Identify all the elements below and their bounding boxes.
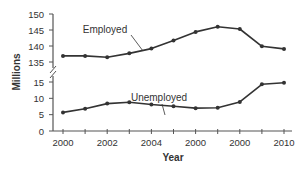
employed-point <box>216 25 220 29</box>
y-tick-label: 0 <box>39 126 44 137</box>
employed-point <box>61 54 65 58</box>
employed-point <box>238 27 242 31</box>
y-tick-label: 135 <box>28 57 44 68</box>
unemployed-point <box>83 107 87 111</box>
y-tick-label: 15 <box>33 77 44 88</box>
unemployed-point <box>260 82 264 86</box>
employed-point <box>172 39 176 43</box>
unemployed-point <box>238 100 242 104</box>
x-tick-label: 2002 <box>97 137 118 148</box>
annotations: EmployedUnemployed <box>83 24 187 115</box>
employed-label: Employed <box>83 24 127 35</box>
employed-point <box>83 54 87 58</box>
employed-point <box>149 47 153 51</box>
x-tick-label: 2004 <box>141 137 162 148</box>
employed-leader-line <box>131 35 143 51</box>
y-tick-label: 140 <box>28 41 44 52</box>
y-tick-label: 5 <box>39 109 44 120</box>
employed-point <box>194 30 198 34</box>
employed-point <box>127 51 131 55</box>
unemployed-point <box>172 104 176 108</box>
unemployed-point <box>149 103 153 107</box>
line-chart: 1351401451500510152000200220042000200020… <box>0 0 306 174</box>
x-axis-title: Year <box>162 152 183 163</box>
employed-point <box>105 55 109 59</box>
x-tick-label: 2000 <box>185 137 206 148</box>
y-axis-title: Millions <box>11 53 22 91</box>
unemployed-point <box>282 81 286 85</box>
unemployed-point <box>105 102 109 106</box>
x-tick-label: 2010 <box>273 137 294 148</box>
unemployed-label: Unemployed <box>131 92 187 103</box>
x-tick-label: 2000 <box>52 137 73 148</box>
y-tick-label: 145 <box>28 25 44 36</box>
y-tick-label: 150 <box>28 9 44 20</box>
y-tick-label: 10 <box>33 93 44 104</box>
x-tick-label: 2000 <box>229 137 250 148</box>
unemployed-point <box>194 106 198 110</box>
employed-point <box>282 47 286 51</box>
employed-point <box>260 44 264 48</box>
unemployed-point <box>61 110 65 114</box>
unemployed-point <box>216 106 220 110</box>
axes: 1351401451500510152000200220042000200020… <box>28 9 294 149</box>
